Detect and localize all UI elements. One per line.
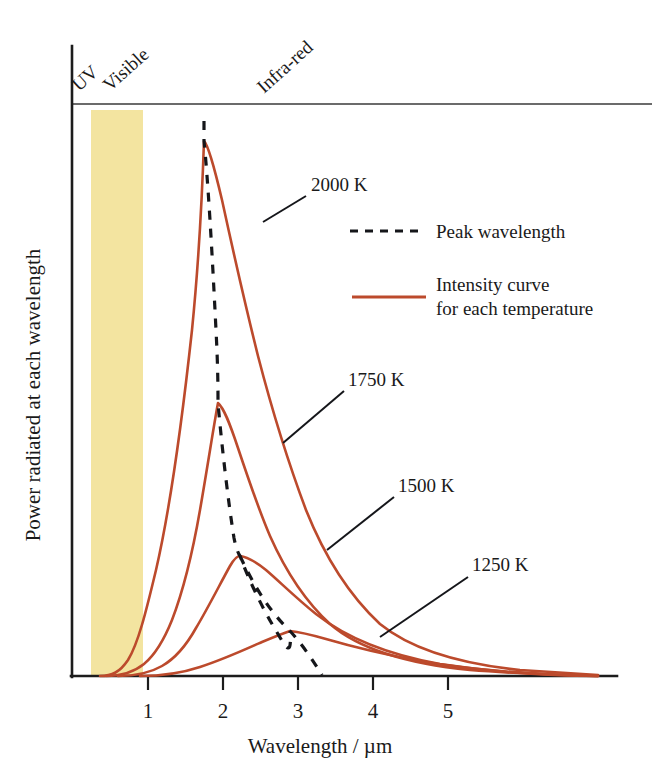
x-tick-label-3: 3	[293, 699, 304, 723]
y-axis-title: Power radiated at each wavelength	[21, 248, 45, 541]
region-label-infrared: Infra-red	[253, 36, 318, 97]
series-annotations: 2000 K 1750 K 1500 K 1250 K	[263, 174, 529, 637]
series-label-1250k: 1250 K	[472, 554, 529, 575]
legend-label-peak-wavelength: Peak wavelength	[436, 221, 566, 242]
x-tick-label-1: 1	[143, 699, 154, 723]
visible-band-shading	[91, 110, 143, 675]
series-label-1750k: 1750 K	[348, 369, 405, 390]
leader-1750k	[283, 391, 344, 443]
leader-2000k	[263, 196, 306, 222]
x-axis-tick-labels: 1 2 3 4 5	[143, 699, 454, 723]
legend-label-intensity-curve-line2: for each temperature	[436, 298, 593, 319]
x-axis-ticks	[148, 676, 448, 690]
leader-1250k	[380, 577, 468, 637]
chart-canvas: 1 2 3 4 5 Wavelength / µm Power radiated…	[0, 0, 654, 770]
curve-1250k	[140, 631, 598, 676]
legend: Peak wavelength Intensity curve for each…	[350, 221, 593, 319]
region-label-visible: Visible	[99, 43, 153, 95]
series-label-1500k: 1500 K	[398, 475, 455, 496]
x-tick-label-2: 2	[218, 699, 229, 723]
x-axis-title: Wavelength / µm	[248, 734, 393, 758]
blackbody-radiation-figure: 1 2 3 4 5 Wavelength / µm Power radiated…	[0, 0, 654, 770]
leader-1500k	[327, 497, 394, 550]
series-label-2000k: 2000 K	[311, 174, 368, 195]
legend-label-intensity-curve: Intensity curve	[436, 274, 549, 295]
x-tick-label-5: 5	[443, 699, 454, 723]
x-tick-label-4: 4	[368, 699, 379, 723]
